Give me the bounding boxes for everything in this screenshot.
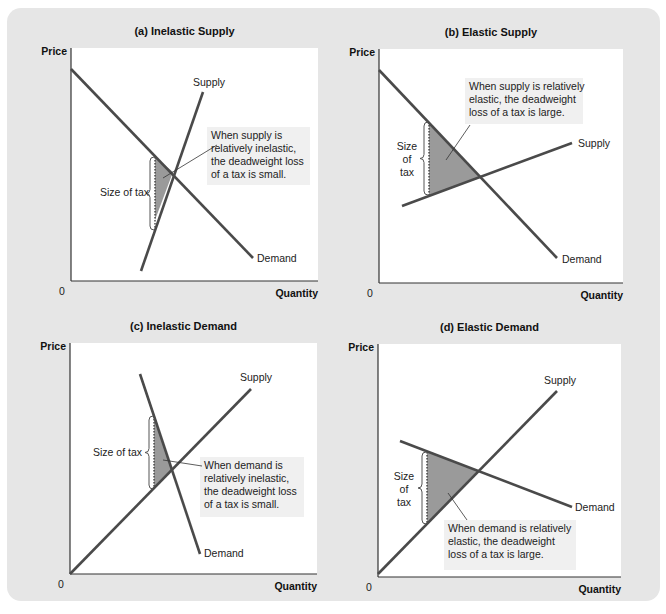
size-of-tax-label: Size of tax: [93, 446, 143, 458]
y-axis-label: Price: [40, 340, 66, 352]
panel-c: (c) Inelastic DemandPriceQuantity0Demand…: [40, 320, 317, 592]
panel-title: (b) Elastic Supply: [445, 26, 538, 38]
tax-deadweight-loss-figure: (a) Inelastic SupplyPriceQuantity0Demand…: [0, 0, 666, 614]
origin-label: 0: [59, 285, 65, 297]
y-axis-label: Price: [41, 45, 67, 57]
callout-text: the deadweight loss: [204, 485, 297, 497]
demand-label: Demand: [257, 252, 297, 264]
callout-text: loss of a tax is large.: [469, 106, 565, 118]
panel-a: (a) Inelastic SupplyPriceQuantity0Demand…: [41, 25, 318, 299]
size-of-tax-label: tax: [400, 166, 415, 178]
demand-label: Demand: [562, 253, 602, 265]
size-of-tax-label: tax: [397, 496, 412, 508]
panel-title: (c) Inelastic Demand: [130, 320, 237, 332]
callout-text: relatively inelastic,: [211, 142, 296, 154]
y-axis-label: Price: [349, 46, 375, 58]
callout-text: When demand is relatively: [448, 522, 572, 534]
x-axis-label: Quantity: [580, 289, 623, 301]
size-of-tax-label: Size of tax: [100, 186, 150, 198]
callout-text: When demand is: [204, 459, 283, 471]
panel-title: (d) Elastic Demand: [440, 321, 539, 333]
callout-text: When supply is: [211, 129, 282, 141]
panel-d: (d) Elastic DemandPriceQuantity0DemandSu…: [348, 321, 621, 595]
y-axis-label: Price: [348, 341, 374, 353]
size-of-tax-label: of: [403, 153, 412, 165]
callout-text: of a tax is small.: [204, 498, 279, 510]
supply-label: Supply: [240, 371, 273, 383]
callout-text: relatively inelastic,: [204, 472, 289, 484]
size-of-tax-label: of: [400, 483, 409, 495]
origin-label: 0: [367, 287, 373, 299]
origin-label: 0: [366, 581, 372, 593]
callout-text: When supply is relatively: [469, 80, 585, 92]
panel-title: (a) Inelastic Supply: [134, 25, 235, 37]
callout-text: of a tax is small.: [211, 168, 286, 180]
x-axis-label: Quantity: [275, 287, 318, 299]
x-axis-label: Quantity: [578, 583, 621, 595]
callout-text: the deadweight loss: [211, 155, 304, 167]
size-of-tax-label: Size: [394, 470, 415, 482]
demand-label: Demand: [575, 501, 615, 513]
callout-text: loss of a tax is large.: [448, 548, 544, 560]
supply-label: Supply: [544, 374, 577, 386]
size-of-tax-label: Size: [397, 140, 418, 152]
supply-label: Supply: [578, 137, 611, 149]
callout-text: elastic, the deadweight: [448, 535, 555, 547]
callout-text: elastic, the deadweight: [469, 93, 576, 105]
panel-b: (b) Elastic SupplyPriceQuantity0DemandSu…: [349, 26, 623, 301]
demand-label: Demand: [204, 547, 244, 559]
x-axis-label: Quantity: [274, 580, 317, 592]
origin-label: 0: [58, 578, 64, 590]
supply-label: Supply: [193, 76, 226, 88]
